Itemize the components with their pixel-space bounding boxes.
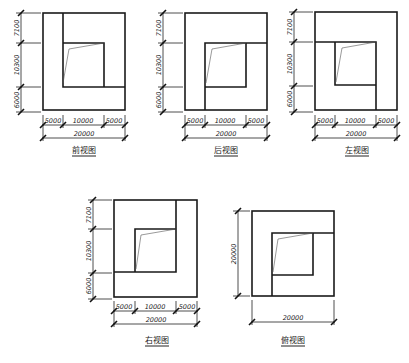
- right-view-label: 右视图: [145, 335, 169, 345]
- left-dim-10000: 10000: [345, 117, 366, 125]
- left-dim-20000: 20000: [346, 130, 367, 138]
- back-dim-5000-left: 5000: [187, 117, 204, 125]
- front-dim-6000: 6000: [13, 92, 21, 109]
- left-inner-l: [315, 42, 376, 110]
- back-view-label: 后视图: [214, 145, 238, 155]
- front-dim-7100: 7100: [13, 20, 21, 37]
- back-view: 7100 10300 6000 5000 10000 5000 20000 后视…: [155, 10, 270, 156]
- left-dim-7100: 7100: [286, 19, 294, 36]
- left-dim-6000: 6000: [286, 91, 294, 108]
- back-dim-10000: 10000: [215, 117, 236, 125]
- left-outer-box: [315, 12, 397, 110]
- right-dim-10300: 10300: [85, 241, 93, 262]
- top-view: 20000 20000 俯视图: [230, 208, 337, 346]
- left-view: 7100 10300 6000 5000 10000 5000 20000 左视…: [286, 9, 400, 156]
- right-dim-6000: 6000: [85, 278, 93, 295]
- right-dim-20000: 20000: [146, 316, 167, 324]
- back-slant-line: [206, 43, 246, 83]
- left-dim-10300: 10300: [286, 54, 294, 75]
- front-dim-10300: 10300: [13, 55, 21, 76]
- left-view-label: 左视图: [345, 145, 369, 155]
- front-dim-5000-left: 5000: [45, 117, 62, 125]
- front-dim-20000: 20000: [74, 130, 95, 138]
- right-slant-line: [136, 229, 176, 269]
- back-dim-7100: 7100: [155, 20, 163, 37]
- left-inner-box: [335, 42, 376, 85]
- top-inner-l: [272, 233, 334, 296]
- front-view: 7100 10300 6000 5000 10000 5000 20000 前视…: [13, 10, 128, 156]
- right-dim-10000: 10000: [145, 303, 166, 311]
- left-dim-5000-left: 5000: [317, 117, 334, 125]
- left-dim-5000-right: 5000: [378, 117, 395, 125]
- back-dim-5000-right: 5000: [248, 117, 265, 125]
- right-view: 7100 10300 6000 5000 10000 5000 20000 右视…: [85, 197, 200, 346]
- top-view-label: 俯视图: [281, 335, 305, 345]
- right-outer-box: [114, 200, 197, 297]
- front-dim-10000: 10000: [73, 117, 94, 125]
- front-view-label: 前视图: [72, 145, 96, 155]
- back-inner-box: [205, 43, 246, 87]
- right-dim-7100: 7100: [85, 207, 93, 224]
- top-slant-line: [273, 233, 313, 272]
- back-dim-10300: 10300: [155, 55, 163, 76]
- front-inner-l: [63, 13, 125, 87]
- orthographic-views-drawing: 7100 10300 6000 5000 10000 5000 20000 前视…: [0, 0, 409, 363]
- top-outer-box: [252, 211, 334, 296]
- right-dim-5000-left: 5000: [116, 303, 133, 311]
- back-dim-6000: 6000: [155, 92, 163, 109]
- front-dim-5000-right: 5000: [106, 117, 123, 125]
- back-dim-20000: 20000: [216, 130, 237, 138]
- front-outer-box: [43, 13, 125, 110]
- left-slant-line: [336, 42, 376, 82]
- right-inner-l: [114, 200, 176, 272]
- right-dim-5000-right: 5000: [179, 303, 196, 311]
- front-slant-line: [63, 43, 104, 83]
- back-outer-box: [185, 13, 267, 110]
- back-inner-l: [205, 43, 267, 110]
- top-dim-20000-vertical: 20000: [230, 244, 238, 265]
- top-dim-20000-horizontal: 20000: [283, 314, 304, 322]
